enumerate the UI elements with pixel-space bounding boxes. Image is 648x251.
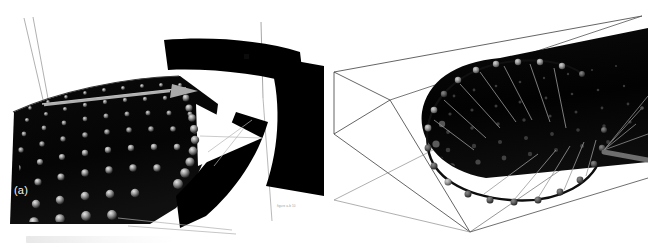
band-notch-marker: [244, 54, 249, 59]
panel-b-canvas: [324, 0, 648, 251]
side-spoke-marker: [640, 106, 644, 110]
panel-a-canvas: [0, 0, 324, 251]
panel-a-micro-label: figure a-b 10: [277, 205, 296, 209]
figure-container: (a) figure a-b 10: [0, 0, 648, 251]
bottom-faint-artifact: [26, 236, 174, 243]
panel-b: (b) axis label axis label: [324, 0, 648, 251]
panel-a: (a) figure a-b 10: [0, 0, 324, 251]
panel-a-caption: (a): [14, 184, 28, 196]
